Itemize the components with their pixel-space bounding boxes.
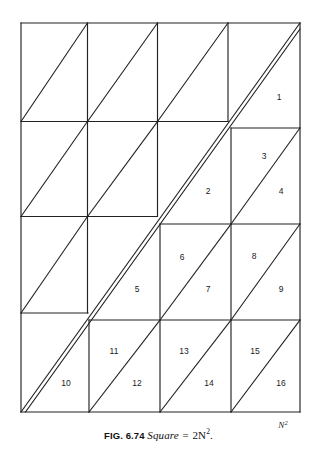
cell-diagonal-p67 [160,224,231,320]
piece-label-14: 14 [204,378,214,388]
caption-figure-number: FIG. 6.74 [104,430,145,441]
cell-diagonal-p34 [231,128,300,224]
piece-label-9: 9 [279,284,284,294]
piece-label-8: 8 [252,251,257,261]
piece-label-1: 1 [277,92,282,102]
piece-label-16: 16 [276,378,286,388]
caption-keyword: Square [147,429,178,441]
piece-label-4: 4 [279,186,284,196]
cell-diagonal-r1c3 [158,23,229,122]
piece-label-6: 6 [180,252,185,262]
piece-label-12: 12 [132,378,142,388]
piece-label-10: 10 [61,378,71,388]
piece-label-13: 13 [179,346,189,356]
caption-expression: 2N [193,429,207,441]
caption-period: . [210,429,213,441]
cell-diagonal-p1314 [160,320,231,412]
piece-label-15: 15 [250,346,260,356]
piece-label-11: 11 [110,346,119,356]
caption-equals-sign: = [181,429,189,441]
figure-caption: FIG. 6.74 Square = 2N2. [0,427,317,441]
cell-diagonal-r1c2 [88,23,158,122]
cell-diagonal-p1516 [231,320,300,412]
cell-diagonal-r1c1 [21,23,88,122]
piece-label-2: 2 [206,186,211,196]
cell-diagonal-p1112 [89,320,160,412]
piece-label-7: 7 [206,284,211,294]
cell-diagonal-r2c1 [21,122,88,217]
piece-label-3: 3 [262,151,267,161]
cell-diagonal-r2c2 [88,122,158,217]
piece-label-5: 5 [135,284,140,294]
n-squared-exponent: 2 [284,419,288,426]
square-dissection-diagram: 1 2 3 4 5 6 7 8 9 10 11 12 13 14 15 16 N… [0,0,317,454]
cell-diagonal-p89 [231,224,300,320]
cell-diagonal-r3c1 [21,217,88,314]
figure-container: 1 2 3 4 5 6 7 8 9 10 11 12 13 14 15 16 N… [0,0,317,454]
piece-labels: 1 2 3 4 5 6 7 8 9 10 11 12 13 14 15 16 [61,92,286,388]
